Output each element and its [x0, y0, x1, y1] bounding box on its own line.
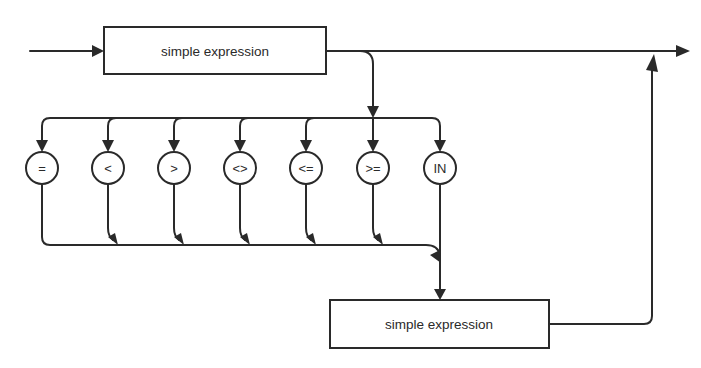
bottom-box-label: simple expression	[385, 317, 493, 332]
bypass-path	[326, 45, 690, 57]
exit-arrow-icon	[676, 45, 690, 57]
operator-label: =	[38, 161, 46, 176]
arrow-down-icon	[367, 140, 379, 152]
branch-down-path	[360, 51, 379, 118]
arrow-right-icon	[92, 45, 104, 57]
arrow-down-icon	[367, 106, 379, 118]
circle-entry-arrows	[36, 140, 446, 152]
arrow-down-icon	[36, 140, 48, 152]
arrow-down-icon	[102, 140, 114, 152]
arrow-down-icon	[434, 140, 446, 152]
operator-label: <=	[298, 161, 313, 176]
arrow-down-icon	[168, 140, 180, 152]
bottom-simple-expression-box: simple expression	[330, 300, 549, 348]
operator-label: <	[104, 161, 112, 176]
operator-greater-equal: >=	[357, 152, 389, 184]
syntax-diagram: simple expression = <	[0, 0, 701, 368]
operator-label: <>	[232, 161, 247, 176]
return-path	[549, 54, 658, 324]
entry-path	[30, 45, 104, 57]
operator-not-equal: <>	[224, 152, 256, 184]
operator-equal: =	[26, 152, 58, 184]
operator-label: IN	[434, 161, 447, 176]
arrow-down-icon	[434, 289, 446, 300]
operator-less-equal: <=	[290, 152, 322, 184]
top-bus	[42, 118, 440, 140]
operator-greater-than: >	[158, 152, 190, 184]
top-box-label: simple expression	[161, 44, 269, 59]
operator-label: >=	[365, 161, 380, 176]
arrow-down-icon	[234, 140, 246, 152]
arrow-down-right-icon	[430, 250, 441, 263]
operator-label: >	[170, 161, 178, 176]
arrow-down-icon	[300, 140, 312, 152]
merge-arrows	[108, 233, 441, 263]
arrow-up-icon	[646, 54, 658, 72]
top-simple-expression-box: simple expression	[104, 27, 326, 74]
operator-less-than: <	[92, 152, 124, 184]
operator-in: IN	[424, 152, 456, 184]
